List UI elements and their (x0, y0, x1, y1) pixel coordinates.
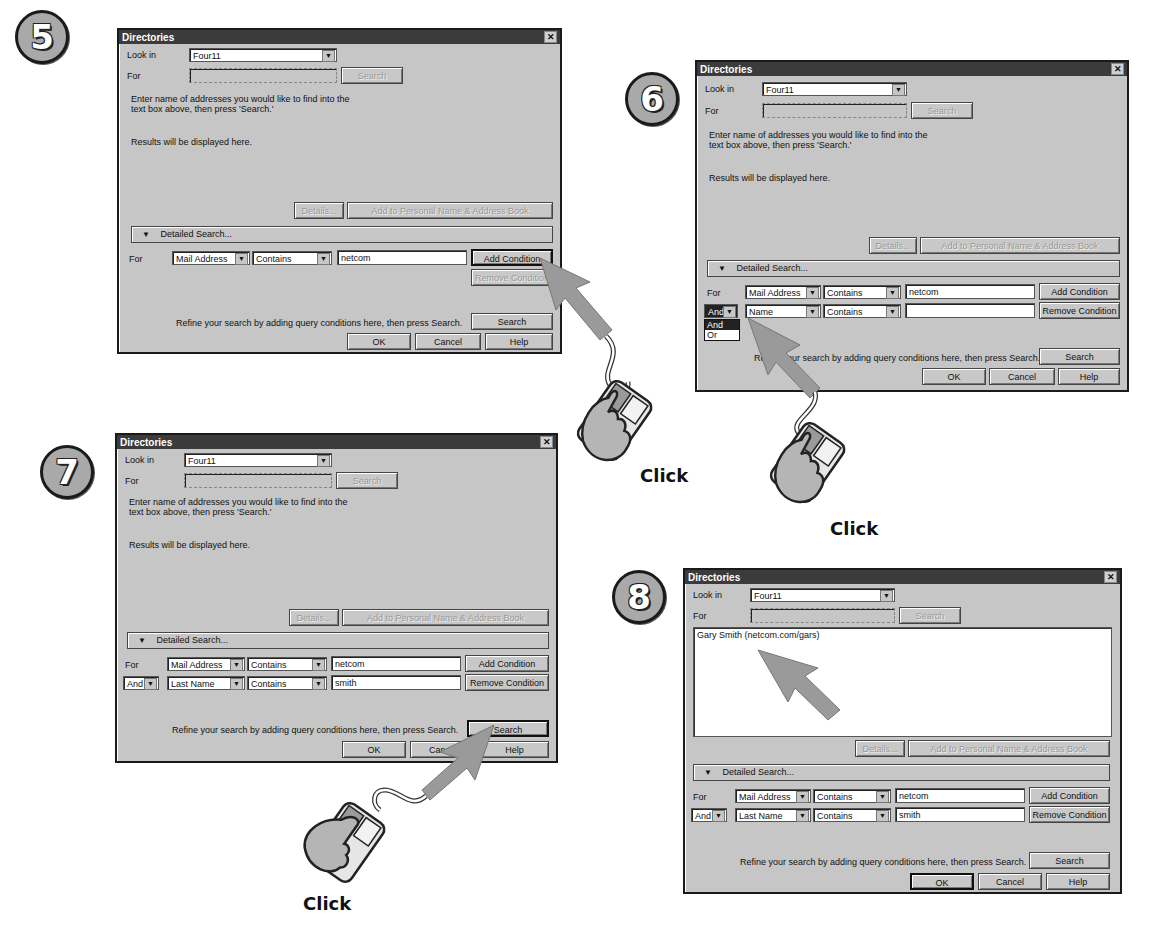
dropdown-arrow-icon[interactable]: ▼ (886, 306, 899, 318)
condition-value-input[interactable]: netcom (337, 250, 467, 265)
condition-operator-select[interactable]: Contains▼ (247, 676, 327, 690)
condition-operator-select[interactable]: Contains▼ (252, 251, 332, 265)
for-input[interactable] (750, 608, 895, 623)
dropdown-option-or[interactable]: Or (705, 330, 739, 340)
ok-button[interactable]: OK (342, 741, 406, 758)
help-button[interactable]: Help (1058, 368, 1120, 385)
add-condition-button[interactable]: Add Condition (1039, 283, 1120, 300)
detailed-search-toggle[interactable]: ▼ Detailed Search... (693, 764, 1110, 781)
condition-field-select[interactable]: Mail Address▼ (172, 251, 250, 265)
details-button[interactable]: Details... (294, 202, 344, 219)
add-to-address-book-button[interactable]: Add to Personal Name & Address Book (920, 237, 1120, 254)
add-to-address-book-button[interactable]: Add to Personal Name & Address Book (342, 609, 549, 626)
dropdown-arrow-icon[interactable]: ▼ (796, 810, 809, 822)
for-input[interactable] (189, 68, 337, 83)
condition-operator-select[interactable]: Contains▼ (813, 808, 891, 822)
details-button[interactable]: Details... (869, 237, 917, 254)
add-to-address-book-button[interactable]: Add to Personal Name & Address Book (347, 202, 553, 219)
dropdown-arrow-icon[interactable]: ▼ (796, 791, 809, 803)
details-button[interactable]: Details... (289, 609, 339, 626)
for-input[interactable] (184, 473, 332, 488)
connector-select[interactable]: And▼ (123, 676, 159, 690)
detailed-search-toggle[interactable]: ▼ Detailed Search... (131, 226, 553, 243)
cancel-button[interactable]: Cancel (415, 333, 481, 350)
add-to-address-book-button[interactable]: Add to Personal Name & Address Book (908, 740, 1110, 757)
ok-button[interactable]: OK (347, 333, 411, 350)
condition-value-input[interactable]: smith (895, 807, 1025, 822)
condition-value-input[interactable]: netcom (331, 656, 461, 671)
search-top-button[interactable]: Search (341, 67, 403, 84)
close-icon[interactable]: ✕ (544, 31, 557, 43)
help-button[interactable]: Help (480, 741, 549, 758)
dropdown-option-and[interactable]: And (705, 320, 739, 330)
search-button[interactable]: Search (471, 313, 553, 330)
connector-dropdown-list[interactable]: And Or (704, 319, 740, 341)
remove-condition-button[interactable]: Remove Condition (471, 269, 553, 286)
look-in-select[interactable]: Four11▼ (184, 453, 332, 467)
cancel-button[interactable]: Cancel (989, 368, 1055, 385)
close-icon[interactable]: ✕ (1111, 63, 1124, 75)
condition-field-select[interactable]: Name▼ (745, 304, 821, 318)
connector-select[interactable]: And▼ (704, 304, 738, 318)
add-condition-button[interactable]: Add Condition (465, 655, 549, 672)
condition-operator-select[interactable]: Contains▼ (247, 657, 327, 671)
look-in-select[interactable]: Four11▼ (762, 82, 907, 96)
dropdown-arrow-icon[interactable]: ▼ (806, 306, 819, 318)
cancel-button[interactable]: Cancel (410, 741, 476, 758)
dropdown-arrow-icon[interactable]: ▼ (144, 678, 157, 690)
condition-operator-select[interactable]: Contains▼ (823, 304, 901, 318)
search-top-button[interactable]: Search (336, 472, 398, 489)
dropdown-arrow-icon[interactable]: ▼ (876, 791, 889, 803)
details-button[interactable]: Details... (855, 740, 905, 757)
dropdown-arrow-icon[interactable]: ▼ (230, 678, 243, 690)
ok-button[interactable]: OK (910, 873, 974, 890)
close-icon[interactable]: ✕ (540, 436, 553, 448)
dropdown-arrow-icon[interactable]: ▼ (723, 306, 736, 318)
dropdown-arrow-icon[interactable]: ▼ (317, 455, 330, 467)
condition-value-input[interactable]: netcom (905, 284, 1035, 299)
condition-field-select[interactable]: Last Name▼ (167, 676, 245, 690)
condition-field-select[interactable]: Last Name▼ (735, 808, 811, 822)
connector-select[interactable]: And▼ (691, 808, 727, 822)
condition-operator-select[interactable]: Contains▼ (823, 285, 901, 299)
add-condition-button[interactable]: Add Condition (471, 249, 553, 266)
result-item[interactable]: Gary Smith (netcom.com/gars) (697, 630, 820, 640)
dropdown-arrow-icon[interactable]: ▼ (712, 810, 725, 822)
close-icon[interactable]: ✕ (1104, 571, 1117, 583)
condition-field-select[interactable]: Mail Address▼ (167, 657, 245, 671)
condition-field-select[interactable]: Mail Address▼ (745, 285, 821, 299)
dropdown-arrow-icon[interactable]: ▼ (886, 287, 899, 299)
dropdown-arrow-icon[interactable]: ▼ (806, 287, 819, 299)
dropdown-arrow-icon[interactable]: ▼ (880, 590, 893, 602)
dropdown-arrow-icon[interactable]: ▼ (312, 659, 325, 671)
look-in-select[interactable]: Four11 ▼ (189, 48, 337, 62)
condition-operator-select[interactable]: Contains▼ (813, 789, 891, 803)
for-input[interactable] (762, 103, 907, 118)
remove-condition-button[interactable]: Remove Condition (465, 674, 549, 691)
dropdown-arrow-icon[interactable]: ▼ (876, 810, 889, 822)
dropdown-arrow-icon[interactable]: ▼ (892, 84, 905, 96)
search-top-button[interactable]: Search (911, 102, 973, 119)
dropdown-arrow-icon[interactable]: ▼ (235, 253, 248, 265)
dropdown-arrow-icon[interactable]: ▼ (317, 253, 330, 265)
ok-button[interactable]: OK (922, 368, 986, 385)
results-list[interactable]: Gary Smith (netcom.com/gars) (693, 627, 1112, 737)
search-button[interactable]: Search (1039, 348, 1120, 365)
look-in-select[interactable]: Four11▼ (750, 588, 895, 602)
condition-value-input[interactable]: smith (331, 675, 461, 690)
help-button[interactable]: Help (1046, 873, 1110, 890)
search-button[interactable]: Search (1029, 852, 1110, 869)
add-condition-button[interactable]: Add Condition (1029, 787, 1110, 804)
condition-value-input[interactable]: netcom (895, 788, 1025, 803)
remove-condition-button[interactable]: Remove Condition (1039, 302, 1120, 319)
detailed-search-toggle[interactable]: ▼ Detailed Search... (127, 632, 549, 649)
search-top-button[interactable]: Search (899, 607, 961, 624)
detailed-search-toggle[interactable]: ▼ Detailed Search... (707, 260, 1120, 277)
condition-value-input[interactable] (905, 303, 1035, 318)
help-button[interactable]: Help (485, 333, 553, 350)
remove-condition-button[interactable]: Remove Condition (1029, 806, 1110, 823)
condition-field-select[interactable]: Mail Address▼ (735, 789, 811, 803)
dropdown-arrow-icon[interactable]: ▼ (312, 678, 325, 690)
dropdown-arrow-icon[interactable]: ▼ (230, 659, 243, 671)
cancel-button[interactable]: Cancel (978, 873, 1042, 890)
